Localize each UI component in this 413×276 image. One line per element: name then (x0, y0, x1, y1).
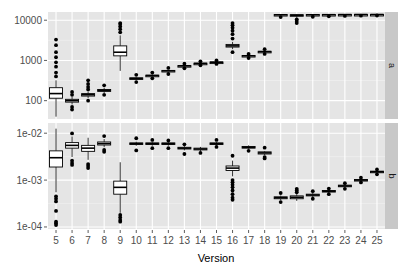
outlier-point (231, 189, 235, 193)
outlier-point (215, 138, 219, 142)
outlier-point (86, 166, 90, 170)
outlier-point (70, 163, 74, 167)
outlier-point (311, 15, 315, 19)
x-tick-label: 23 (339, 235, 351, 246)
faceted-boxplot-chart: 100100010000a 1e-041e-031e-02b 567891011… (0, 0, 413, 276)
outlier-point (231, 192, 235, 196)
outlier-point (54, 71, 58, 75)
outlier-point (375, 14, 379, 18)
outlier-point (54, 223, 58, 227)
outlier-point (311, 189, 315, 193)
outlier-point (279, 15, 283, 19)
x-tick-label: 6 (69, 235, 75, 246)
x-tick-label: 25 (371, 235, 383, 246)
outlier-point (183, 66, 187, 70)
y-tick-label: 100 (25, 95, 42, 106)
outlier-point (199, 63, 203, 67)
outlier-point (166, 72, 170, 76)
outlier-point (247, 149, 251, 153)
outlier-point (359, 14, 363, 18)
outlier-point (150, 71, 154, 75)
x-tick-label: 7 (85, 235, 91, 246)
outlier-point (54, 38, 58, 42)
outlier-point (54, 55, 58, 59)
outlier-point (375, 172, 379, 176)
x-tick-label: 17 (243, 235, 255, 246)
outlier-point (118, 21, 122, 25)
outlier-point (327, 187, 331, 191)
x-axis-title: Version (198, 252, 235, 264)
outlier-point (102, 83, 106, 87)
outlier-point (54, 200, 58, 204)
outlier-point (343, 14, 347, 18)
outlier-point (327, 192, 331, 196)
outlier-point (150, 146, 154, 150)
outlier-point (102, 93, 106, 97)
outlier-point (150, 76, 154, 80)
x-tick-label: 11 (147, 235, 158, 246)
x-tick-label: 9 (117, 235, 123, 246)
outlier-point (166, 139, 170, 143)
x-tick-label: 13 (179, 235, 191, 246)
outlier-point (199, 151, 203, 155)
outlier-point (263, 52, 267, 56)
outlier-point (343, 181, 347, 185)
outlier-point (183, 142, 187, 146)
x-tick-label: 16 (227, 235, 239, 246)
outlier-point (70, 105, 74, 109)
x-tick-label: 21 (307, 235, 319, 246)
facet-strip-label: b (387, 173, 397, 178)
outlier-point (102, 134, 106, 138)
panel-b: 1e-041e-031e-02b (16, 123, 398, 232)
outlier-point (86, 82, 90, 86)
y-tick-label: 1e-03 (16, 175, 42, 186)
outlier-point (54, 50, 58, 54)
x-tick-label: 22 (323, 235, 335, 246)
x-tick-label: 5 (53, 235, 59, 246)
outlier-point (166, 66, 170, 70)
outlier-point (118, 220, 122, 224)
outlier-point (54, 43, 58, 47)
outlier-point (327, 14, 331, 18)
outlier-point (70, 90, 74, 94)
outlier-point (359, 181, 363, 185)
y-tick-label: 1000 (20, 55, 43, 66)
outlier-point (54, 60, 58, 64)
outlier-point (183, 62, 187, 66)
box (114, 46, 127, 56)
outlier-point (247, 52, 251, 56)
outlier-point (231, 37, 235, 41)
outlier-point (86, 99, 90, 103)
x-tick-label: 10 (131, 235, 143, 246)
outlier-point (134, 80, 138, 84)
outlier-point (231, 50, 235, 54)
x-tick-label: 24 (355, 235, 367, 246)
facet-strip-label: a (387, 63, 397, 68)
outlier-point (311, 197, 315, 201)
outlier-point (183, 152, 187, 156)
x-tick-label: 14 (195, 235, 207, 246)
outlier-point (263, 146, 267, 150)
outlier-point (86, 78, 90, 82)
x-tick-label: 8 (101, 235, 107, 246)
box (50, 151, 63, 167)
outlier-point (263, 47, 267, 51)
outlier-point (343, 187, 347, 191)
outlier-point (215, 145, 219, 149)
outlier-point (359, 176, 363, 180)
outlier-point (54, 65, 58, 69)
x-tick-label: 20 (291, 235, 303, 246)
outlier-point (231, 198, 235, 202)
outlier-point (134, 73, 138, 77)
outlier-point (295, 17, 299, 21)
outlier-point (54, 209, 58, 213)
x-tick-label: 12 (163, 235, 175, 246)
outlier-point (231, 154, 235, 158)
y-tick-label: 10000 (14, 15, 42, 26)
outlier-point (70, 132, 74, 136)
x-tick-label: 15 (211, 235, 223, 246)
outlier-point (215, 62, 219, 66)
x-tick-label: 19 (275, 235, 287, 246)
outlier-point (279, 200, 283, 204)
outlier-point (134, 136, 138, 140)
